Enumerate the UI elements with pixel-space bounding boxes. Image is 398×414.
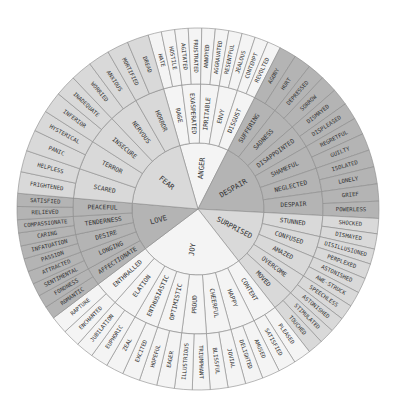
emotion-wheel-svg: ANGERRAGEHATEHOSTILEEXASPERATEDAGITATEDF…	[0, 0, 398, 414]
segment-layer	[17, 28, 379, 390]
emotion-wheel: ANGERRAGEHATEHOSTILEEXASPERATEDAGITATEDF…	[0, 0, 398, 414]
